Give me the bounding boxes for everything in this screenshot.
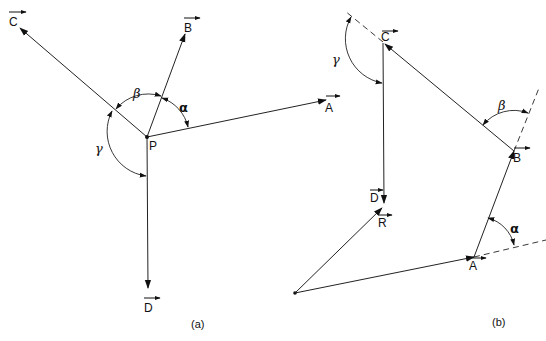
vector-diagram: β α γ P A B C D (a) — [0, 0, 546, 341]
vector-a-extension — [474, 240, 546, 257]
point-p-label: P — [149, 139, 157, 153]
angle-gamma-label: γ — [95, 141, 103, 156]
angle-gamma-arc — [107, 111, 146, 176]
vector-d-line — [383, 43, 384, 203]
vector-a-line — [147, 100, 326, 137]
panel-b: α β γ A B C D R (b) — [293, 11, 546, 328]
panel-b-caption: (b) — [492, 316, 505, 328]
vector-d-label: D — [370, 191, 379, 205]
angle-beta-label: β — [497, 98, 506, 113]
panel-a: β α γ P A B C D (a) — [9, 12, 340, 330]
vector-r-line — [295, 208, 382, 293]
vector-c-label: C — [381, 30, 390, 44]
vector-a-label: A — [469, 259, 477, 273]
vector-c-line — [385, 44, 514, 151]
vector-r-label: R — [378, 216, 387, 230]
angle-beta-label: β — [132, 86, 141, 101]
vector-b-line — [147, 34, 185, 137]
angle-gamma-arc — [345, 17, 382, 83]
vector-a-line — [295, 257, 474, 293]
angle-alpha-label: α — [510, 221, 519, 236]
vector-d-line — [147, 137, 148, 288]
vector-b-label: B — [184, 21, 192, 35]
vector-c-extension — [345, 11, 383, 42]
angle-alpha-label: α — [179, 100, 188, 115]
vector-b-line — [474, 151, 514, 257]
angle-gamma-label: γ — [332, 52, 340, 67]
vector-b-label: B — [513, 151, 521, 165]
vector-d-label: D — [144, 301, 153, 315]
vector-a-label: A — [325, 101, 333, 115]
panel-a-caption: (a) — [191, 318, 204, 330]
vector-b-extension — [514, 88, 539, 151]
vector-c-label: C — [9, 15, 18, 29]
vector-c-line — [20, 28, 147, 137]
